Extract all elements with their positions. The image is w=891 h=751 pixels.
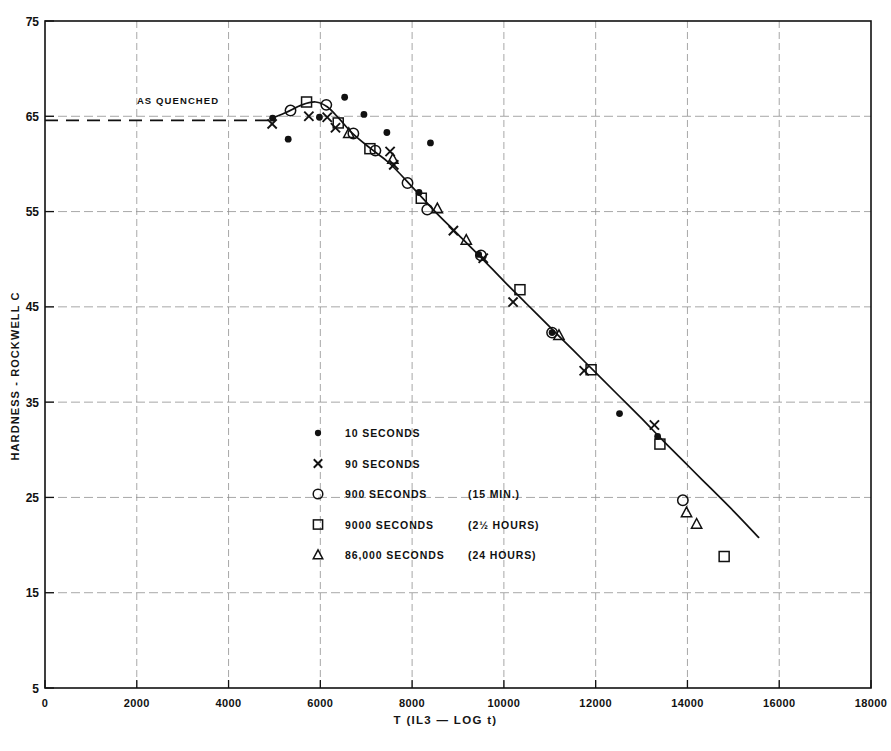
legend-item: 10 SECONDS (315, 427, 421, 439)
y-tick-label: 5 (32, 682, 39, 696)
y-tick-label: 55 (26, 205, 40, 219)
marker-open-square (313, 520, 322, 529)
marker-open-triangle (681, 507, 691, 517)
series-0 (269, 94, 661, 440)
y-tick-label: 35 (26, 396, 40, 410)
legend-label: 90 SECONDS (345, 458, 421, 470)
legend-label: 9000 SECONDS (345, 519, 434, 531)
marker-x (508, 297, 517, 306)
legend-item: 900 SECONDS(15 MIN.) (313, 488, 520, 500)
marker-open-triangle (388, 154, 398, 164)
tempering-master-curve (272, 102, 758, 537)
series-1 (268, 112, 659, 430)
marker-filled-circle (341, 94, 348, 101)
x-tick-label: 4000 (216, 697, 242, 709)
master-curve-path (272, 102, 758, 537)
marker-x (323, 113, 332, 122)
marker-open-triangle (313, 550, 322, 559)
legend-note: (15 MIN.) (468, 488, 520, 500)
marker-open-square (719, 552, 729, 562)
x-tick-label: 14000 (671, 697, 704, 709)
axis-ticks (45, 21, 871, 688)
series-2 (285, 100, 688, 506)
x-tick-label: 0 (42, 697, 49, 709)
marker-open-circle (422, 204, 432, 214)
y-tick-label: 45 (26, 300, 40, 314)
marker-x (650, 420, 659, 429)
legend-note: (24 HOURS) (468, 549, 537, 561)
marker-filled-circle (383, 129, 390, 136)
legend-label: 86,000 SECONDS (345, 549, 445, 561)
legend: 10 SECONDS90 SECONDS900 SECONDS(15 MIN.)… (313, 427, 539, 561)
marker-filled-circle (361, 111, 368, 118)
x-tick-label: 6000 (307, 697, 333, 709)
legend-item: 9000 SECONDS(2½ HOURS) (313, 519, 539, 531)
marker-x (449, 226, 458, 235)
legend-note: (2½ HOURS) (468, 519, 539, 531)
marker-filled-circle (285, 136, 292, 143)
grid-layer (45, 21, 871, 688)
axis-frame (45, 21, 871, 688)
marker-open-triangle (691, 519, 701, 529)
y-tick-label: 65 (26, 110, 40, 124)
marker-x (314, 459, 322, 467)
chart-root: HARDNESS - ROCKWELL C 020004000600080001… (0, 0, 891, 751)
marker-filled-circle (549, 329, 556, 336)
marker-filled-circle (315, 430, 321, 436)
y-tick-label: 25 (26, 491, 40, 505)
hardness-tempering-plot: 0200040006000800010000120001400016000180… (0, 0, 891, 751)
x-tick-label: 18000 (855, 697, 888, 709)
legend-item: 90 SECONDS (314, 458, 421, 470)
marker-filled-circle (316, 114, 323, 121)
legend-item: 86,000 SECONDS(24 HOURS) (313, 549, 536, 561)
x-tick-label: 12000 (579, 697, 612, 709)
marker-filled-circle (427, 140, 434, 147)
x-tick-label: 16000 (763, 697, 796, 709)
y-tick-label: 15 (26, 586, 40, 600)
x-axis-title: T (IL3 — LOG t) (0, 714, 891, 726)
plot-frame (45, 21, 871, 688)
x-tick-label: 10000 (488, 697, 521, 709)
marker-x (580, 366, 589, 375)
x-tick-label: 2000 (124, 697, 150, 709)
marker-filled-circle (616, 410, 623, 417)
x-tick-label: 8000 (399, 697, 425, 709)
axis-tick-labels: 0200040006000800010000120001400016000180… (26, 15, 888, 710)
legend-label: 900 SECONDS (345, 488, 427, 500)
legend-label: 10 SECONDS (345, 427, 421, 439)
as-quenched-label: AS QUENCHED (137, 95, 219, 106)
y-tick-label: 75 (26, 15, 40, 29)
marker-open-circle (678, 495, 688, 505)
